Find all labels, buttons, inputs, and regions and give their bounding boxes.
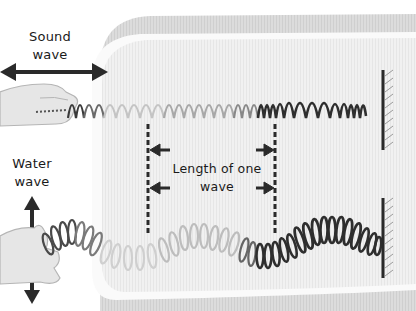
sound-wave-arrow-icon bbox=[0, 63, 108, 81]
hand-top-icon bbox=[0, 84, 78, 126]
water-wave-label: Water wave bbox=[8, 155, 56, 191]
diagram-canvas: Sound wave Water wave Length of one wave bbox=[0, 0, 416, 311]
water-wave-label-line2: wave bbox=[8, 173, 56, 191]
sound-wave-label: Sound wave bbox=[22, 28, 78, 64]
sound-wave-label-line1: Sound bbox=[22, 28, 78, 46]
sound-wave-label-line2: wave bbox=[22, 46, 78, 64]
wavelength-label: Length of one wave bbox=[156, 160, 278, 196]
water-wave-label-line1: Water bbox=[8, 155, 56, 173]
